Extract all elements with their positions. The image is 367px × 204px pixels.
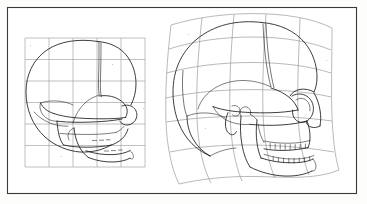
figure-border <box>8 8 357 194</box>
skull-transformation-figure <box>0 0 367 204</box>
figure-root <box>0 0 367 204</box>
